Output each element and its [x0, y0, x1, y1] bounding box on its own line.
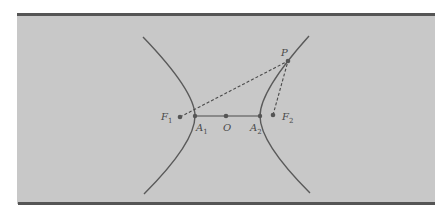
- point-a1: [193, 114, 197, 118]
- diagram-panel: [17, 15, 435, 204]
- top-border: [17, 13, 435, 16]
- point-o: [224, 114, 229, 119]
- point-f2: [271, 113, 276, 118]
- point-p: [286, 59, 291, 64]
- hyperbola-diagram: P F1 F2 A1 O A2: [0, 0, 445, 215]
- label-o: O: [223, 122, 231, 133]
- point-a2: [258, 114, 262, 118]
- label-p: P: [280, 47, 288, 58]
- bottom-border: [18, 202, 435, 205]
- point-f1: [178, 115, 183, 120]
